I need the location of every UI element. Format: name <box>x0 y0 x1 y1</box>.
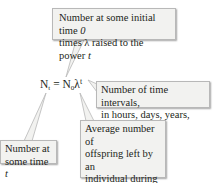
exponential-growth-equation: Nt = N0λt <box>40 77 82 92</box>
callout-intervals-line1: Number of time intervals, <box>101 84 205 109</box>
callout-offspring-line3: individual during one <box>85 173 161 183</box>
callout-time-intervals: Number of time intervals, in hours, days… <box>96 81 210 108</box>
callout-number-at-time-t: Number at some time t <box>0 140 57 164</box>
callout-offspring-line2: offspring left by an <box>85 148 161 173</box>
callout-initial-line1: Number at some initial time 0 <box>59 12 171 37</box>
callout-offspring-line1: Average number of <box>85 123 161 148</box>
callout-at-t-line1: Number at <box>5 143 52 156</box>
callout-at-t-line2: some time t <box>5 156 52 181</box>
callout-initial-line2: times λ raised to the power t <box>59 37 171 62</box>
callout-initial-number: Number at some initial time 0 times λ ra… <box>52 8 176 40</box>
callout-average-offspring: Average number of offspring left by an i… <box>80 120 166 178</box>
